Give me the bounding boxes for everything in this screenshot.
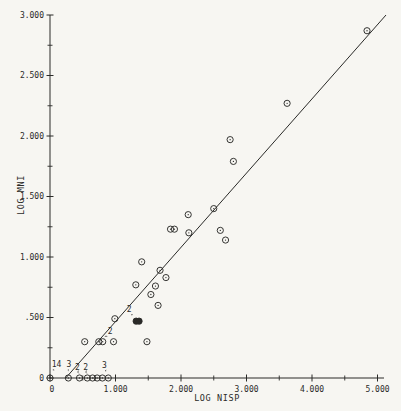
data-point-center-dot xyxy=(135,284,136,285)
data-point-center-dot xyxy=(188,232,189,233)
y-tick-label: 1.000 xyxy=(20,253,44,262)
data-point-center-dot xyxy=(92,377,93,378)
data-point-cluster-label: 2 xyxy=(83,363,88,372)
y-tick-label: 2.000 xyxy=(20,132,44,141)
data-point-cluster-label: 2 xyxy=(75,363,80,372)
data-point-center-dot xyxy=(146,341,147,342)
data-point-center-dot xyxy=(84,341,85,342)
x-tick-label: 1.000 xyxy=(103,385,127,394)
data-point-center-dot xyxy=(141,261,142,262)
leader-line xyxy=(68,369,69,370)
data-point-cluster-label: 14 xyxy=(52,360,62,369)
data-point-center-dot xyxy=(113,341,114,342)
data-point-center-dot xyxy=(79,377,80,378)
data-point-center-dot xyxy=(155,285,156,286)
data-point-cluster-label: 3 xyxy=(102,361,107,370)
data-point-center-dot xyxy=(114,318,115,319)
y-tick-label: 0 xyxy=(39,374,44,383)
data-point-center-dot xyxy=(102,341,103,342)
data-point-center-dot xyxy=(220,230,221,231)
data-point-cluster-label: 2 xyxy=(127,305,132,314)
data-point-center-dot xyxy=(286,103,287,104)
x-tick-label: 0 xyxy=(50,385,55,394)
regression-line xyxy=(66,15,386,378)
data-point-center-dot xyxy=(165,277,166,278)
scatter-plot: 0.5001.0001.5002.0002.5003.00001.0002.00… xyxy=(0,0,401,411)
leader-line xyxy=(131,314,132,315)
data-point-center-dot xyxy=(188,214,189,215)
data-point-center-dot xyxy=(174,229,175,230)
data-point-cluster-label: 3 xyxy=(67,360,72,369)
data-point-center-dot xyxy=(233,161,234,162)
x-tick-label: 2.000 xyxy=(169,385,193,394)
y-tick-label: 2.500 xyxy=(20,71,44,80)
data-point-center-dot xyxy=(49,377,50,378)
x-tick-label: 5.000 xyxy=(365,385,389,394)
data-point-center-dot xyxy=(102,377,103,378)
data-point-center-dot xyxy=(150,294,151,295)
data-point-cluster-label: 2 xyxy=(108,327,113,336)
data-point-center-dot xyxy=(68,377,69,378)
x-tick-label: 4.000 xyxy=(300,385,324,394)
data-point-center-dot xyxy=(225,239,226,240)
data-point-center-dot xyxy=(108,377,109,378)
y-axis-title: LOG MNI xyxy=(16,175,26,215)
data-point-center-dot xyxy=(97,377,98,378)
data-point-center-dot xyxy=(87,377,88,378)
figure-page: 0.5001.0001.5002.0002.5003.00001.0002.00… xyxy=(0,0,401,411)
y-tick-label: 3.000 xyxy=(20,11,44,20)
data-point-filled xyxy=(136,318,142,324)
y-tick-label: .500 xyxy=(25,313,44,322)
data-point-center-dot xyxy=(213,208,214,209)
data-point-center-dot xyxy=(159,270,160,271)
data-point-center-dot xyxy=(366,30,367,31)
leader-line xyxy=(53,370,54,371)
data-point-center-dot xyxy=(157,305,158,306)
data-point-center-dot xyxy=(229,139,230,140)
x-axis-title: LOG NISP xyxy=(194,393,240,403)
